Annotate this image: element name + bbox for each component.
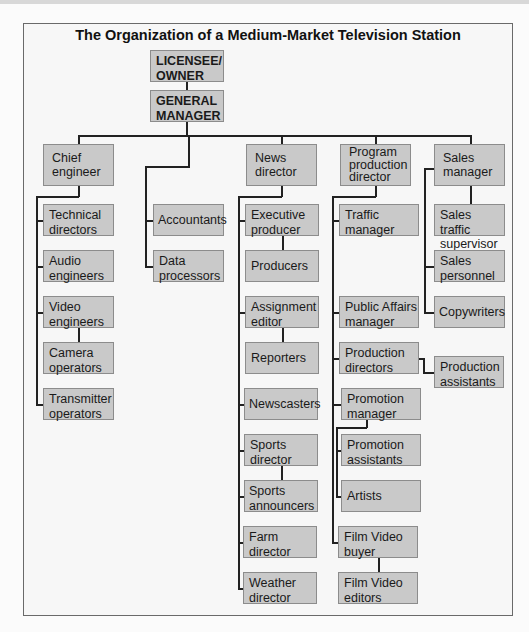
- connector: [238, 312, 245, 314]
- program-production-director-box: Program production director: [340, 144, 411, 186]
- audio-engineers-box: Audio engineers: [43, 250, 114, 282]
- promotion-manager-box: Promotion manager: [341, 388, 421, 420]
- connector: [36, 220, 43, 222]
- connector: [36, 266, 43, 268]
- sales-personnel-box: Sales personnel: [434, 250, 505, 282]
- camera-operators-box: Camera operators: [43, 342, 114, 374]
- connector: [238, 196, 240, 589]
- connector: [282, 236, 284, 250]
- connector: [145, 266, 153, 268]
- traffic-manager-box: Traffic manager: [339, 204, 419, 236]
- sales-manager-box: Sales manager: [434, 144, 505, 186]
- connector: [78, 328, 80, 342]
- connector: [78, 135, 80, 144]
- connector: [332, 196, 334, 543]
- connector: [375, 135, 377, 144]
- chart-title: The Organization of a Medium-Market Tele…: [23, 27, 513, 43]
- connector: [282, 328, 284, 342]
- connector: [424, 168, 434, 170]
- connector: [78, 135, 472, 137]
- connector: [423, 358, 425, 373]
- connector: [332, 196, 376, 198]
- connector: [188, 135, 190, 167]
- film-video-editors-box: Film Video editors: [338, 572, 418, 604]
- newscasters-box: Newscasters: [244, 388, 318, 420]
- accountants-box: Accountants: [153, 204, 224, 236]
- connector: [336, 427, 367, 429]
- connector: [336, 427, 338, 497]
- transmitter-operators-box: Transmitter operators: [43, 388, 114, 420]
- promotion-assistants-box: Promotion assistants: [341, 434, 421, 466]
- chief-engineer-box: Chief engineer: [43, 144, 114, 186]
- connector: [332, 312, 339, 314]
- connector: [332, 358, 339, 360]
- connector: [424, 312, 434, 314]
- technical-directors-box: Technical directors: [43, 204, 114, 236]
- connector: [186, 82, 188, 90]
- news-director-box: News director: [246, 144, 317, 186]
- connector: [281, 135, 283, 144]
- producers-box: Producers: [245, 250, 319, 282]
- executive-producer-box: Executive producer: [245, 204, 319, 236]
- weather-director-box: Weather director: [243, 572, 317, 604]
- sports-director-box: Sports director: [244, 434, 318, 466]
- connector: [238, 220, 245, 222]
- farm-director-box: Farm director: [243, 526, 317, 558]
- public-affairs-manager-box: Public Affairs manager: [339, 296, 419, 328]
- copywriters-box: Copywriters: [434, 296, 505, 328]
- connector: [36, 404, 43, 406]
- data-processors-box: Data processors: [153, 250, 224, 282]
- top-band: [0, 0, 529, 4]
- artists-box: Artists: [341, 480, 421, 512]
- connector: [145, 166, 190, 168]
- connector: [470, 135, 472, 144]
- connector: [332, 404, 341, 406]
- connector: [424, 266, 434, 268]
- connector: [378, 558, 380, 572]
- production-directors-box: Production directors: [339, 342, 419, 374]
- connector: [36, 312, 43, 314]
- production-assistants-box: Production assistants: [434, 356, 504, 388]
- connector: [36, 196, 38, 405]
- connector: [238, 196, 282, 198]
- connector: [145, 166, 147, 267]
- connector: [281, 466, 283, 480]
- connector: [36, 196, 79, 198]
- sales-traffic-supervisor-box: Sales traffic supervisor: [434, 204, 505, 236]
- connector: [332, 220, 339, 222]
- connector: [423, 372, 434, 374]
- sports-announcers-box: Sports announcers: [244, 480, 318, 512]
- reporters-box: Reporters: [245, 342, 319, 374]
- film-video-buyer-box: Film Video buyer: [338, 526, 418, 558]
- connector: [470, 186, 472, 204]
- licensee-owner-box: LICENSEE/ OWNER: [150, 50, 224, 82]
- general-manager-box: GENERAL MANAGER: [150, 90, 224, 122]
- video-engineers-box: Video engineers: [43, 296, 114, 328]
- connector: [186, 122, 188, 136]
- connector: [424, 168, 426, 313]
- assignment-editor-box: Assignment editor: [245, 296, 319, 328]
- connector: [145, 220, 153, 222]
